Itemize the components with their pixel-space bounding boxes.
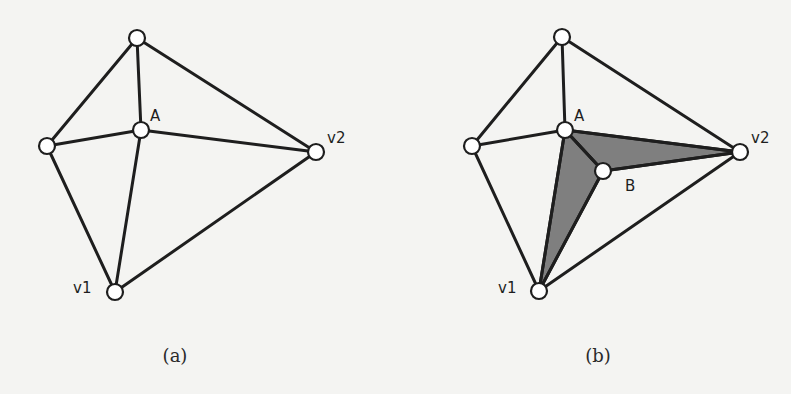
- subfigure-a: Av2v1 (a): [39, 30, 345, 366]
- vertex-label-v2: v2: [327, 129, 345, 147]
- edge-left-v1: [472, 146, 539, 291]
- edge-top-v2: [137, 38, 316, 152]
- vertex-B: [595, 163, 611, 179]
- vertex-v2: [732, 144, 748, 160]
- edge-A-v2: [141, 130, 316, 152]
- caption-a: (a): [163, 345, 188, 366]
- caption-b: (b): [585, 345, 611, 366]
- edge-left-v1: [47, 146, 115, 292]
- vertex-A: [557, 122, 573, 138]
- vertex-label-A: A: [574, 107, 585, 125]
- vertex-label-A: A: [150, 107, 161, 125]
- vertex-label-B: B: [625, 177, 635, 195]
- vertex-left: [39, 138, 55, 154]
- vertex-label-v1: v1: [498, 279, 516, 297]
- vertex-A: [133, 122, 149, 138]
- vertex-v1: [531, 283, 547, 299]
- edge-top-A: [137, 38, 141, 130]
- vertex-label-v2: v2: [751, 129, 769, 147]
- edge-top-left: [47, 38, 137, 146]
- edge-top-left: [472, 37, 562, 146]
- shaded-faces-b: [539, 130, 740, 291]
- edge-left-A: [47, 130, 141, 146]
- edge-v1-v2: [115, 152, 316, 292]
- graph-edges-a: [47, 38, 316, 292]
- figure: Av2v1 (a) ABv2v1 (b): [0, 0, 791, 394]
- graph-nodes-b: [464, 29, 748, 299]
- vertex-v1: [107, 284, 123, 300]
- vertex-top: [554, 29, 570, 45]
- vertex-left: [464, 138, 480, 154]
- edge-top-A: [562, 37, 565, 130]
- subfigure-b: ABv2v1 (b): [464, 29, 769, 366]
- graph-nodes-a: [39, 30, 324, 300]
- vertex-v2: [308, 144, 324, 160]
- vertex-top: [129, 30, 145, 46]
- vertex-label-v1: v1: [73, 279, 91, 297]
- edge-A-v1: [115, 130, 141, 292]
- edge-left-A: [472, 130, 565, 146]
